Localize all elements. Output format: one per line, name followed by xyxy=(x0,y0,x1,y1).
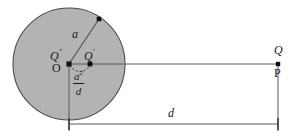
label-q-prime-base: Q xyxy=(84,49,93,63)
label-q-prime-mark: ′ xyxy=(93,48,95,57)
label-inverse-numerator: a2 xyxy=(73,70,84,83)
label-inverse-distance: a2 d xyxy=(73,70,84,97)
fraction-bar xyxy=(73,83,84,84)
label-p: P xyxy=(274,67,281,79)
label-o: O xyxy=(52,62,61,74)
label-q-double-prime-mark: ″ xyxy=(59,48,62,57)
label-q: Q xyxy=(274,44,283,56)
radius-label-a: a xyxy=(72,28,78,40)
diagram-canvas xyxy=(0,0,297,138)
inversion-diagram: a Q″ O Q′ a2 d Q P d xyxy=(0,0,297,138)
label-distance-d: d xyxy=(168,107,174,119)
marker-point-radius-end xyxy=(97,17,102,22)
label-inverse-numerator-exponent: 2 xyxy=(80,69,83,76)
marker-point-O xyxy=(66,61,71,66)
label-inverse-denominator: d xyxy=(73,85,84,97)
label-q-prime: Q′ xyxy=(84,49,94,62)
